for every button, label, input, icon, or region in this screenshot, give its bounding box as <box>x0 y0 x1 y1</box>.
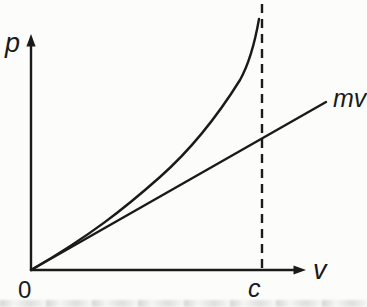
relativistic-momentum-curve <box>31 19 259 270</box>
momentum-velocity-figure: p v 0 c mv <box>0 0 367 307</box>
classical-momentum-line <box>31 102 326 270</box>
classical-line-label: mv <box>333 84 367 112</box>
plot-canvas: p v 0 c mv <box>0 0 367 307</box>
origin-label: 0 <box>18 276 31 303</box>
x-axis-arrowhead <box>294 265 307 274</box>
y-axis-arrowhead <box>26 34 35 47</box>
scan-artifact-strip <box>0 300 367 307</box>
light-speed-label: c <box>248 274 261 302</box>
x-axis-label: v <box>313 255 328 285</box>
y-axis-label: p <box>4 28 20 58</box>
